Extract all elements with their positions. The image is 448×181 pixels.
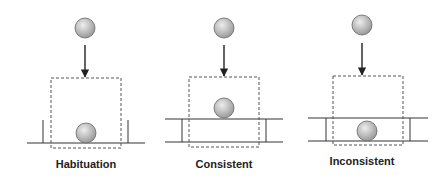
result-ball [76, 123, 96, 143]
panel-inconsistent: Inconsistent [308, 15, 428, 167]
panel-label: Consistent [196, 158, 253, 170]
falling-ball [75, 18, 95, 38]
result-ball [214, 98, 234, 118]
figure-canvas: Habituation Consistent Inconsistent [0, 0, 448, 181]
panel-habituation: Habituation [27, 18, 145, 170]
falling-ball [214, 18, 234, 38]
panel-label: Inconsistent [330, 155, 395, 167]
falling-ball [352, 15, 372, 35]
result-ball [357, 121, 377, 141]
panel-consistent: Consistent [165, 18, 283, 170]
panel-label: Habituation [56, 158, 117, 170]
